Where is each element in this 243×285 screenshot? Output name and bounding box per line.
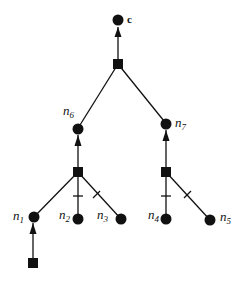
arrowhead-n7 bbox=[163, 130, 170, 141]
label-c: c bbox=[127, 13, 132, 25]
edge-top-to-n7 bbox=[118, 64, 164, 121]
edge-right-to-n5 bbox=[166, 172, 210, 220]
node-n2 bbox=[73, 214, 84, 225]
node-c bbox=[113, 15, 124, 26]
node-n4 bbox=[161, 214, 172, 225]
arrowhead-c bbox=[115, 27, 122, 37]
label-n3: n3 bbox=[97, 207, 109, 224]
label-n5: n5 bbox=[220, 209, 232, 226]
arrowhead-n1 bbox=[30, 223, 37, 234]
label-n4: n4 bbox=[148, 207, 160, 224]
label-n1: n1 bbox=[13, 208, 24, 225]
node-n7 bbox=[161, 119, 172, 130]
arrowhead-n6 bbox=[75, 135, 82, 146]
junction-square-top bbox=[113, 59, 123, 69]
label-n2: n2 bbox=[59, 207, 71, 224]
label-n7: n7 bbox=[175, 115, 187, 132]
node-n5 bbox=[205, 215, 216, 226]
node-n6 bbox=[73, 124, 84, 135]
node-n1 bbox=[29, 212, 40, 223]
junction-square-bottom bbox=[28, 258, 38, 268]
junction-square-left bbox=[73, 167, 83, 177]
edge-top-to-n6 bbox=[80, 64, 118, 125]
tree-diagram: c n6 n7 n1 n2 n3 n4 n5 bbox=[0, 0, 243, 285]
edge-left-to-n1 bbox=[34, 172, 78, 217]
node-n3 bbox=[116, 214, 127, 225]
junction-square-right bbox=[161, 167, 171, 177]
junctions bbox=[28, 59, 171, 268]
label-n6: n6 bbox=[63, 103, 75, 120]
